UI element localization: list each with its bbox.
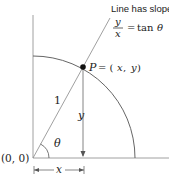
point-p-dot	[80, 64, 86, 70]
slope-line	[33, 18, 110, 158]
slope-theta: θ	[157, 22, 163, 33]
point-p-close: )	[137, 62, 141, 73]
x-dim-arrow-right-icon	[79, 168, 84, 172]
x-dim-arrow-left-icon	[34, 168, 39, 172]
theta-label: θ	[54, 137, 61, 150]
theta-angle-arc	[41, 144, 50, 158]
point-p-eq: = (	[98, 62, 114, 73]
slope-frac-numerator: y	[114, 16, 121, 27]
diagram-canvas: Line has slope y x = tan θ P = ( x , y )…	[0, 0, 169, 176]
slope-frac-denominator: x	[115, 28, 121, 39]
hypotenuse-label: 1	[54, 94, 61, 107]
y-arrowhead-icon	[81, 151, 86, 157]
slope-caption: Line has slope	[111, 3, 169, 14]
point-p-y: y	[130, 62, 137, 73]
point-p-comma: ,	[123, 62, 126, 73]
unit-circle-diagram: Line has slope y x = tan θ P = ( x , y )…	[0, 0, 169, 176]
point-p-name: P	[88, 61, 97, 74]
vertical-y-label: y	[77, 109, 85, 122]
slope-tan-fn: tan	[137, 22, 154, 33]
slope-equals: =	[127, 22, 135, 33]
horizontal-x-label: x	[56, 163, 62, 175]
origin-label: (0, 0)	[1, 152, 29, 164]
